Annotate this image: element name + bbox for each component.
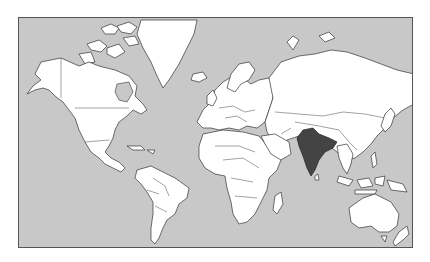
north-america <box>27 58 147 172</box>
south-america <box>135 166 189 244</box>
australia <box>349 194 399 232</box>
greenland <box>137 20 197 88</box>
indonesia <box>337 176 407 194</box>
madagascar <box>273 192 283 214</box>
new-zealand <box>393 226 409 246</box>
world-map <box>18 17 413 248</box>
iceland <box>191 72 207 82</box>
arctic-islands <box>79 22 139 64</box>
